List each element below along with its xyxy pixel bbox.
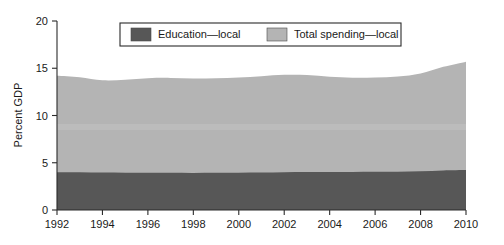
y-tick-label: 0 [42, 204, 48, 216]
x-tick-label: 2000 [227, 218, 251, 230]
x-tick-label: 2008 [408, 218, 432, 230]
y-tick-label: 15 [36, 62, 48, 74]
x-tick-label: 1992 [45, 218, 69, 230]
legend-swatch-total-spending-local [267, 28, 287, 41]
legend-label-total-spending-local: Total spending—local [294, 28, 399, 40]
plot-area [57, 62, 466, 210]
x-tick-label: 2002 [272, 218, 296, 230]
scan-artifact-band [57, 124, 466, 130]
y-tick-label: 10 [36, 110, 48, 122]
stacked-area-chart: 05101520 1992199419961998200020022004200… [0, 0, 504, 245]
x-tick-label: 2006 [363, 218, 387, 230]
legend-swatch-education-local [131, 28, 151, 41]
y-tick-label: 20 [36, 15, 48, 27]
y-axis-title: Percent GDP [12, 83, 24, 148]
x-tick-label: 1998 [181, 218, 205, 230]
area-education-local [57, 170, 466, 210]
chart-figure: 05101520 1992199419961998200020022004200… [0, 0, 504, 245]
x-tick-label: 2010 [454, 218, 478, 230]
x-tick-label: 2004 [317, 218, 341, 230]
chart-legend: Education—local Total spending—local [120, 23, 401, 46]
y-tick-label: 5 [42, 157, 48, 169]
x-tick-label: 1994 [90, 218, 114, 230]
x-tick-label: 1996 [136, 218, 160, 230]
legend-label-education-local: Education—local [158, 28, 241, 40]
